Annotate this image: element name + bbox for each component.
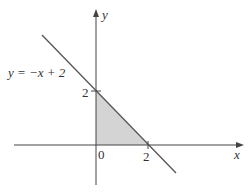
line-y-equals-neg-x-plus-2 xyxy=(42,35,176,173)
line-equation-label: y = −x + 2 xyxy=(8,66,65,79)
x-axis-label: x xyxy=(234,148,240,161)
coordinate-plane xyxy=(0,0,249,193)
y-axis-label: y xyxy=(102,8,108,21)
y-axis-arrow-icon xyxy=(93,9,99,17)
origin-label: 0 xyxy=(98,148,105,161)
y-tick-label-2: 2 xyxy=(82,86,89,99)
x-tick-label-2: 2 xyxy=(143,150,150,163)
